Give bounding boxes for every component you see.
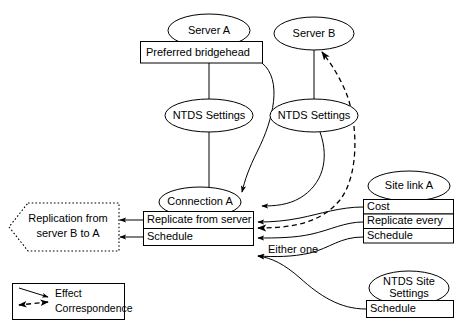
legend-item-1-label: Correspondence <box>55 302 133 314</box>
server-b-label: Server B <box>293 27 336 39</box>
ntds-settings-b-label: NTDS Settings <box>278 109 351 121</box>
preferred-bridgehead-label: Preferred bridgehead <box>146 46 250 58</box>
site-link-a-row-1-label: Replicate every <box>367 214 443 226</box>
connection-a-row-0-label: Replicate from server <box>147 213 252 225</box>
connection-a-row-1-label: Schedule <box>147 230 193 242</box>
replication-result-label-line2: server B to A <box>37 227 101 239</box>
ntds-site-settings-label-line1: NTDS Site <box>383 275 435 287</box>
node-ntds-settings-server-a[interactable]: NTDS Settings <box>165 99 253 132</box>
replication-result-label-line1: Replication from <box>28 212 107 224</box>
node-replication-result[interactable]: Replication from server B to A <box>9 203 119 251</box>
replication-topology-diagram: Server A Server B NTDS Settings NTDS Set… <box>0 0 476 331</box>
site-link-a-row-2-label: Schedule <box>367 229 413 241</box>
ntds-settings-a-label: NTDS Settings <box>173 109 246 121</box>
table-connection-a-attributes: Replicate from server Schedule <box>144 212 254 246</box>
site-link-a-label: Site link A <box>385 179 434 191</box>
server-a-label: Server A <box>188 24 231 36</box>
node-server-b[interactable]: Server B <box>274 17 354 50</box>
effect-site-link-cost-to-connection-a <box>258 207 363 222</box>
effect-site-link-replicate-every-to-connection-a <box>258 222 363 238</box>
node-preferred-bridgehead[interactable]: Preferred bridgehead <box>141 42 263 64</box>
node-ntds-settings-server-b[interactable]: NTDS Settings <box>270 99 358 132</box>
table-site-link-a-attributes: Cost Replicate every Schedule <box>364 200 454 244</box>
effect-ntds-settings-b-to-connection-a <box>262 132 324 206</box>
effect-ntds-site-settings-schedule-to-connection-a <box>258 256 366 309</box>
ntds-site-settings-label-line2: Settings <box>389 287 429 299</box>
legend: Effect Correspondence <box>13 284 133 320</box>
node-ntds-site-settings[interactable]: NTDS Site Settings <box>369 271 449 305</box>
node-site-link-a[interactable]: Site link A <box>368 171 450 201</box>
legend-item-0-label: Effect <box>55 287 82 299</box>
table-ntds-site-settings-attributes: Schedule <box>367 301 454 318</box>
connection-a-label: Connection A <box>167 195 233 207</box>
effect-preferred-bridgehead-to-connection-a <box>242 63 274 192</box>
site-link-a-row-0-label: Cost <box>367 200 390 212</box>
either-one-annotation: Either one <box>268 243 318 255</box>
ntds-site-settings-row-0-label: Schedule <box>370 302 416 314</box>
diagram-canvas: Server A Server B NTDS Settings NTDS Set… <box>0 0 476 331</box>
